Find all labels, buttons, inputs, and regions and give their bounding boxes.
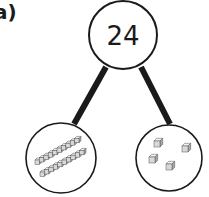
ones-cube [182,143,191,152]
ones-cube [154,138,163,147]
part-whole-diagram: 24 [0,0,209,197]
whole-number: 24 [106,21,139,51]
tens-rod-1-cube [75,136,81,142]
right-branch-line [141,67,170,124]
tens-rod-2-cube [80,148,86,154]
ones-cube [149,154,158,163]
tens-part-circle [26,123,96,193]
ones-part-circle [136,125,202,191]
ones-cube [166,161,175,170]
left-branch-line [74,67,106,124]
